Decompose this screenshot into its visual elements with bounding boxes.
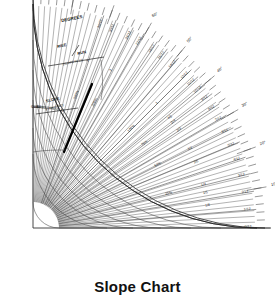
degree-tick [95,5,97,13]
rise-run-label: 14/12 [168,59,177,68]
rise-run-label: 21/12 [135,36,143,46]
degree-major-tick [247,187,267,190]
rise-callout-label: RISE [57,42,67,49]
degree-tick [117,13,120,20]
degree-tick [219,98,226,102]
degrees-callout-label: DEGREES [61,14,83,23]
degree-tick [241,141,248,144]
degree-tick [183,56,188,62]
degree-tick [152,31,156,38]
degree-tick [231,119,238,123]
slope-chart-svg: 0°10°20°30°40°50°60°70°80°90°0/121/122/1… [0,0,275,275]
fan-hairline [54,93,209,212]
rise-run-label: 0/12 [245,225,252,229]
degree-tick [87,3,89,11]
rise-run-ray [45,28,134,205]
fan-hairline [59,211,254,226]
degree-major-tick [172,46,185,61]
degree-label: 30° [241,100,249,108]
degree-major-tick [71,0,74,14]
degree-major-tick [199,76,214,89]
gradient-ratio-label: 5000 [31,105,39,109]
gradient-label: 1/8 [205,203,210,208]
degree-tick [194,67,200,73]
degree-tick [124,16,127,23]
percent-label: 300% [73,90,80,100]
degree-label: 40° [216,65,224,73]
rise-run-label: 11/12 [186,78,195,87]
figure-title: Slope Chart [0,274,275,302]
degree-tick [49,0,50,5]
degree-label: 50° [185,35,193,43]
fan-hairline [59,205,254,225]
rise-run-ray [58,174,250,222]
rise-run-label: 2/12 [241,189,248,194]
degree-tick [131,19,135,26]
degree-tick [210,85,216,90]
degree-tick [246,156,254,158]
degree-label: 60° [151,11,159,19]
degree-tick [199,73,205,78]
degree-tick [256,212,264,213]
degree-tick [248,164,256,166]
degree-tick [255,196,263,197]
rise-run-label: 36/12 [97,19,104,29]
fan-hairline [45,30,134,205]
degree-tick [223,105,230,109]
percent-label: 200% [91,97,99,107]
gradient-label: 1/4 [201,182,207,187]
degree-tick [138,23,142,30]
gradient-label: 1/2 [187,145,193,151]
degree-label: 10° [271,181,275,187]
degree-major-tick [237,147,256,154]
degree-tick [238,134,245,137]
degree-label: 20° [259,139,267,146]
degree-tick [171,45,176,51]
gradient-label: 1/5 [203,190,209,195]
slope-chart-figure: 0°10°20°30°40°50°60°70°80°90°0/121/122/1… [0,0,275,302]
run-callout-label: RUN [77,49,87,56]
percent-label: 50% [154,161,162,168]
degree-major-tick [107,5,114,24]
gradient-label: 3/4 [170,119,176,125]
degree-tick [234,126,241,130]
rise-run-label: 10/12 [193,85,202,94]
degree-tick [250,172,258,174]
rise-run-label: 24/12 [125,30,133,40]
degree-tick [256,204,264,205]
degree-tick [189,61,195,67]
degree-tick [165,40,170,46]
degree-tick [56,0,57,5]
degree-tick [158,36,162,43]
degree-tick [102,7,104,15]
degree-tick [252,180,260,182]
degree-tick [64,0,65,6]
rise-run-label: 5/12 [227,141,235,147]
degree-tick [214,92,220,97]
fan-hairline [56,122,228,216]
rise-run-label: 9/12 [200,95,208,102]
degree-tick [80,1,82,9]
